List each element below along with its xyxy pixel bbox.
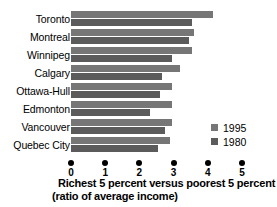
bar-1980-calgary — [71, 73, 162, 80]
caption-line-2: (ratio of average income) — [52, 190, 277, 203]
bar-1980-vancouver — [71, 127, 165, 134]
legend-item-1980: 1980 — [211, 135, 273, 148]
legend-swatch-icon — [211, 124, 218, 131]
bar-1980-ottawa-hull — [71, 91, 160, 98]
chart-row: Toronto — [0, 10, 277, 28]
caption-line-1: Richest 5 percent versus poorest 5 perce… — [58, 177, 277, 190]
bar-1995-quebec-city — [71, 137, 170, 144]
axis-tick-2: 2 — [132, 160, 146, 178]
tick-dot-icon — [68, 160, 74, 166]
bar-1980-quebec-city — [71, 145, 158, 152]
axis-tick-1: 1 — [98, 160, 112, 178]
legend-item-1995: 1995 — [211, 121, 273, 134]
bar-1995-winnipeg — [71, 47, 192, 54]
bar-1995-montreal — [71, 29, 194, 36]
tick-dot-icon — [171, 160, 177, 166]
bar-1980-edmonton — [71, 109, 150, 116]
category-label-toronto: Toronto — [0, 11, 70, 27]
chart-row: Edmonton — [0, 100, 277, 118]
axis-tick-5: 5 — [235, 160, 249, 178]
tick-dot-icon — [136, 160, 142, 166]
bar-1980-montreal — [71, 37, 189, 44]
legend-label: 1980 — [223, 136, 246, 148]
category-label-quebec-city: Quebec City — [0, 137, 70, 153]
category-label-winnipeg: Winnipeg — [0, 47, 70, 63]
bar-1980-winnipeg — [71, 55, 172, 62]
category-label-montreal: Montreal — [0, 29, 70, 45]
axis-tick-4: 4 — [201, 160, 215, 178]
tick-dot-icon — [102, 160, 108, 166]
bar-1995-edmonton — [71, 101, 172, 108]
chart-row: Ottawa-Hull — [0, 82, 277, 100]
chart-caption: Richest 5 percent versus poorest 5 perce… — [58, 177, 277, 203]
bar-1980-toronto — [71, 19, 192, 26]
bar-chart: TorontoMontrealWinnipegCalgaryOttawa-Hul… — [0, 0, 277, 207]
axis-tick-3: 3 — [167, 160, 181, 178]
legend-label: 1995 — [223, 122, 246, 134]
chart-row: Winnipeg — [0, 46, 277, 64]
chart-row: Calgary — [0, 64, 277, 82]
category-label-edmonton: Edmonton — [0, 101, 70, 117]
tick-dot-icon — [239, 160, 245, 166]
category-label-ottawa-hull: Ottawa-Hull — [0, 83, 70, 99]
bar-1995-ottawa-hull — [71, 83, 172, 90]
bar-1995-toronto — [71, 11, 213, 18]
category-label-vancouver: Vancouver — [0, 119, 70, 135]
axis-tick-0: 0 — [64, 160, 78, 178]
bar-1995-vancouver — [71, 119, 172, 126]
chart-legend: 19951980 — [211, 121, 273, 149]
chart-row: Montreal — [0, 28, 277, 46]
category-label-calgary: Calgary — [0, 65, 70, 81]
tick-dot-icon — [205, 160, 211, 166]
legend-swatch-icon — [211, 138, 218, 145]
bar-1995-calgary — [71, 65, 180, 72]
